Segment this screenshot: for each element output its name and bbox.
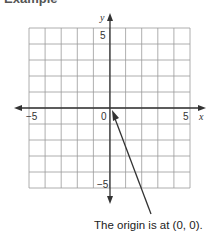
x-axis-left-arrow-icon	[14, 105, 22, 111]
x-tick-5: 5	[183, 112, 189, 122]
y-tick-neg5: −5	[97, 180, 108, 190]
origin-pointer	[112, 110, 151, 214]
x-axis-label: x	[199, 112, 203, 122]
origin-label: 0	[101, 112, 107, 122]
x-tick-neg5: −5	[26, 112, 37, 122]
y-axis-up-arrow-icon	[107, 13, 113, 21]
y-axis-down-arrow-icon	[107, 196, 113, 204]
pointer-arrowhead-icon	[112, 110, 119, 121]
origin-caption: The origin is at (0, 0).	[94, 219, 203, 231]
y-axis-label: y	[100, 13, 104, 23]
y-tick-5: 5	[100, 31, 106, 41]
